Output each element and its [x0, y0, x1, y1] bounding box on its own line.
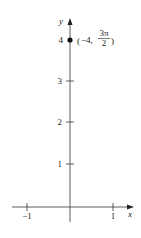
y-tick-label: 1	[58, 159, 63, 169]
x-tick-label: −1	[22, 211, 32, 221]
x-axis-label: x	[127, 209, 132, 219]
y-tick-label: 3	[58, 76, 63, 86]
point-label-numerator: 3π	[99, 28, 109, 38]
point-label-denominator: 2	[102, 38, 107, 48]
y-axis-label: y	[58, 16, 63, 26]
y-axis-arrow-icon	[68, 18, 73, 25]
y-tick-label: 2	[58, 117, 63, 127]
point-label: ( −4, 3π 2 )	[77, 28, 114, 48]
y-tick-label: 4	[59, 35, 64, 45]
point-label-close-paren: )	[111, 36, 114, 46]
data-point	[67, 37, 72, 42]
x-tick-label: 1	[111, 211, 116, 221]
point-label-prefix: −4,	[81, 35, 93, 45]
point-label-open-paren: (	[77, 36, 80, 46]
polar-point-plot: −1 1 x 1 2 3 4 y ( −4, 3π 2 )	[0, 0, 141, 238]
